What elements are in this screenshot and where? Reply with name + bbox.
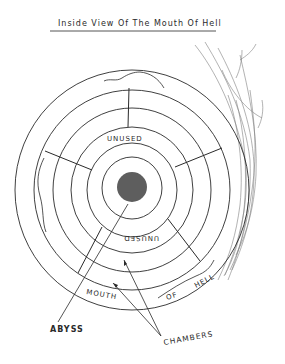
spoke-left (45, 151, 92, 170)
diagram-title: Inside View Of The Mouth Of Hell (58, 19, 222, 28)
spoke-bottom-right (168, 219, 200, 261)
root-hatching (195, 42, 263, 280)
abyss-pit (117, 172, 147, 202)
arrowheads (113, 260, 127, 288)
mouth-of-hell-diagram: Inside View Of The Mouth Of Hell (0, 0, 285, 364)
abyss-pointer (58, 204, 128, 322)
spoke-bottom-left (78, 227, 102, 273)
label-unused-bottom: UNUSED (123, 234, 159, 242)
label-abyss: ABYSS (50, 325, 84, 334)
label-unused-top: UNUSED (107, 135, 143, 143)
spoke-top (128, 88, 129, 127)
label-chambers: CHAMBERS (163, 329, 214, 347)
label-hell: HELL (193, 273, 216, 290)
spoke-right (175, 148, 222, 167)
label-mouth: MOUTH (86, 288, 118, 301)
